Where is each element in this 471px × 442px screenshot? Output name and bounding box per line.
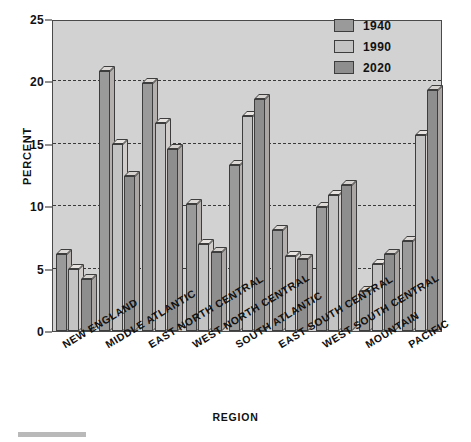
y-tick-label-25: 25 — [0, 13, 44, 27]
bar-2020-west-north-central — [211, 252, 222, 331]
page-artifact-bar — [18, 432, 86, 437]
bar-front-face — [427, 90, 438, 331]
bar-front-face — [384, 254, 395, 331]
legend-swatch-2020 — [334, 61, 354, 74]
legend-label-1940: 1940 — [363, 19, 391, 33]
legend-item-1940: 1940 — [334, 18, 391, 33]
y-tick-mark-15 — [45, 144, 52, 145]
chart-figure: PERCENT 0510152025 NEW ENGLANDMIDDLE ATL… — [0, 0, 471, 442]
bar-1940-new-england — [56, 254, 67, 331]
bar-front-face — [415, 135, 426, 331]
bar-front-face — [68, 269, 79, 331]
legend-swatch-1940 — [334, 19, 354, 32]
bar-side-face — [438, 85, 443, 331]
y-tick-label-5: 5 — [0, 263, 44, 277]
y-tick-label-15: 15 — [0, 138, 44, 152]
y-tick-mark-25 — [45, 20, 52, 21]
legend-label-2020: 2020 — [363, 61, 391, 75]
y-tick-label-20: 20 — [0, 75, 44, 89]
bar-front-face — [56, 254, 67, 331]
bar-1940-south-atlantic — [229, 165, 240, 331]
legend-item-2020: 2020 — [334, 60, 391, 75]
y-tick-label-10: 10 — [0, 200, 44, 214]
bar-front-face — [155, 123, 166, 331]
bar-front-face — [211, 252, 222, 331]
y-axis-title: PERCENT — [21, 101, 33, 211]
legend-item-1990: 1990 — [334, 39, 391, 54]
x-axis-title: REGION — [0, 411, 471, 423]
bar-front-face — [142, 83, 153, 331]
bar-2020-pacific — [427, 90, 438, 331]
legend-swatch-1990 — [334, 40, 354, 53]
legend-label-1990: 1990 — [363, 40, 391, 54]
y-tick-mark-5 — [45, 269, 52, 270]
bar-side-face — [352, 180, 357, 331]
bar-2020-mountain — [384, 254, 395, 331]
bar-1990-east-north-central — [155, 123, 166, 331]
bar-1940-east-north-central — [142, 83, 153, 331]
bar-front-face — [229, 165, 240, 331]
legend: 194019902020 — [330, 14, 399, 85]
bar-front-face — [99, 71, 110, 331]
bar-1940-middle-atlantic — [99, 71, 110, 331]
bar-front-face — [242, 116, 253, 331]
y-tick-mark-0 — [45, 332, 52, 333]
bar-1990-south-atlantic — [242, 116, 253, 331]
bar-1990-pacific — [415, 135, 426, 331]
bar-1990-new-england — [68, 269, 79, 331]
y-tick-mark-20 — [45, 82, 52, 83]
y-tick-label-0: 0 — [0, 325, 44, 339]
y-tick-mark-10 — [45, 207, 52, 208]
